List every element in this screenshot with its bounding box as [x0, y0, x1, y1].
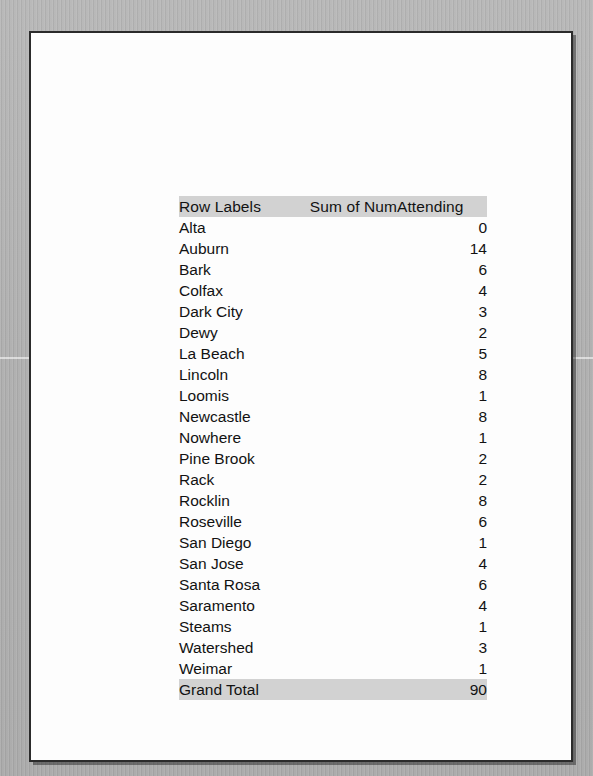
table-row: Dewy2	[179, 322, 487, 343]
table-row: La Beach5	[179, 343, 487, 364]
row-label: Alta	[179, 217, 286, 238]
table-row: Auburn14	[179, 238, 487, 259]
row-value: 1	[286, 616, 487, 637]
grand-total-value: 90	[286, 679, 487, 700]
table-row: Alta0	[179, 217, 487, 238]
row-label: Dark City	[179, 301, 286, 322]
row-label: Auburn	[179, 238, 286, 259]
row-value: 1	[286, 427, 487, 448]
table-row: Bark6	[179, 259, 487, 280]
row-label: Roseville	[179, 511, 286, 532]
table-row: Rocklin8	[179, 490, 487, 511]
row-label: San Diego	[179, 532, 286, 553]
row-label: Rack	[179, 469, 286, 490]
row-label: La Beach	[179, 343, 286, 364]
row-value: 3	[286, 301, 487, 322]
row-value: 2	[286, 469, 487, 490]
row-value: 3	[286, 637, 487, 658]
table-row: Pine Brook2	[179, 448, 487, 469]
row-value: 8	[286, 406, 487, 427]
table-row: Roseville6	[179, 511, 487, 532]
row-value: 14	[286, 238, 487, 259]
pivot-table-footer: Grand Total 90	[179, 679, 487, 700]
table-row: San Diego1	[179, 532, 487, 553]
row-label: Dewy	[179, 322, 286, 343]
table-row: Loomis1	[179, 385, 487, 406]
row-label: Steams	[179, 616, 286, 637]
row-label: Watershed	[179, 637, 286, 658]
table-row: Steams1	[179, 616, 487, 637]
row-value: 0	[286, 217, 487, 238]
row-value: 1	[286, 532, 487, 553]
table-row: Colfax4	[179, 280, 487, 301]
row-label: Rocklin	[179, 490, 286, 511]
pivot-table-header: Row Labels Sum of NumAttending	[179, 196, 487, 217]
table-row: Lincoln8	[179, 364, 487, 385]
pivot-table: Row Labels Sum of NumAttending Alta0Aubu…	[179, 196, 487, 700]
table-header-row: Row Labels Sum of NumAttending	[179, 196, 487, 217]
table-row: Newcastle8	[179, 406, 487, 427]
row-value: 6	[286, 574, 487, 595]
row-value: 2	[286, 448, 487, 469]
row-value: 4	[286, 280, 487, 301]
row-value: 8	[286, 490, 487, 511]
grand-total-row: Grand Total 90	[179, 679, 487, 700]
table-row: Weimar1	[179, 658, 487, 679]
pivot-table-body: Alta0Auburn14Bark6Colfax4Dark City3Dewy2…	[179, 217, 487, 679]
column-header-sum-of-numattending[interactable]: Sum of NumAttending	[286, 196, 487, 217]
row-value: 2	[286, 322, 487, 343]
table-row: Santa Rosa6	[179, 574, 487, 595]
table-row: San Jose4	[179, 553, 487, 574]
table-row: Rack2	[179, 469, 487, 490]
column-header-row-labels[interactable]: Row Labels	[179, 196, 286, 217]
row-label: Bark	[179, 259, 286, 280]
row-label: Saramento	[179, 595, 286, 616]
row-value: 8	[286, 364, 487, 385]
table-row: Watershed3	[179, 637, 487, 658]
row-value: 1	[286, 385, 487, 406]
grand-total-label: Grand Total	[179, 679, 286, 700]
row-label: Loomis	[179, 385, 286, 406]
table-row: Saramento4	[179, 595, 487, 616]
row-value: 4	[286, 553, 487, 574]
row-label: Nowhere	[179, 427, 286, 448]
row-value: 6	[286, 259, 487, 280]
row-label: San Jose	[179, 553, 286, 574]
row-label: Weimar	[179, 658, 286, 679]
table-row: Nowhere1	[179, 427, 487, 448]
row-label: Santa Rosa	[179, 574, 286, 595]
row-label: Pine Brook	[179, 448, 286, 469]
row-value: 4	[286, 595, 487, 616]
row-value: 5	[286, 343, 487, 364]
table-row: Dark City3	[179, 301, 487, 322]
row-value: 1	[286, 658, 487, 679]
row-label: Colfax	[179, 280, 286, 301]
row-label: Lincoln	[179, 364, 286, 385]
row-label: Newcastle	[179, 406, 286, 427]
row-value: 6	[286, 511, 487, 532]
printed-page: Row Labels Sum of NumAttending Alta0Aubu…	[29, 31, 573, 762]
